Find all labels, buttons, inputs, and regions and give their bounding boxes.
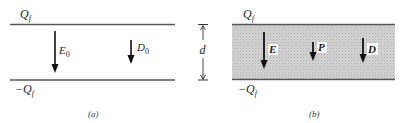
displacement-label-d0: D0 (136, 41, 149, 56)
caption-a: (a) (88, 109, 99, 119)
top-charge-label-b: Qf (243, 7, 256, 23)
bottom-charge-label-a: −Qf (15, 82, 36, 98)
capacitor-diagram: Qf −Qf E0 D0 (a) d (0, 0, 405, 123)
bottom-charge-label-b: −Qf (238, 82, 259, 98)
displacement-label-d: D (367, 43, 376, 55)
displacement-arrow-d0 (128, 40, 135, 64)
polarization-label-p: P (318, 41, 325, 53)
field-label-e0: E0 (58, 44, 70, 59)
field-arrow-e0 (52, 31, 59, 73)
dimension-d: d (198, 25, 208, 81)
panel-a: Qf −Qf E0 D0 (a) (10, 7, 175, 119)
field-label-e: E (268, 43, 276, 55)
caption-b: (b) (309, 109, 320, 119)
dimension-label: d (200, 43, 207, 57)
top-charge-label-a: Qf (20, 7, 33, 23)
panel-b: Qf −Qf E P D (b) (232, 7, 395, 119)
